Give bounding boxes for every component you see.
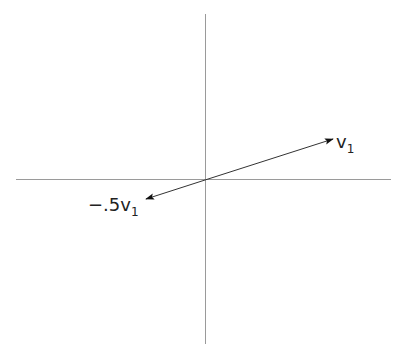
label-neg-half-v1: −.5v1 bbox=[88, 194, 139, 219]
label-v1: v1 bbox=[336, 131, 354, 156]
vector-neg-half-v1-arrow bbox=[146, 180, 205, 199]
vector-diagram: v1 −.5v1 bbox=[0, 0, 404, 358]
vector-v1-arrow bbox=[205, 139, 333, 180]
